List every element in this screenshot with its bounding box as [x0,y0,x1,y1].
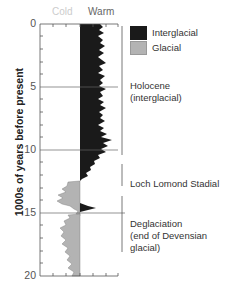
annotation-loch-lomond: Loch Lomond Stadial [130,178,219,190]
legend-label-interglacial: Interglacial [152,27,198,38]
interglacial-area [80,24,112,181]
warm-spike-area [80,203,96,212]
annotation-loch-lomond-line: Loch Lomond Stadial [130,178,219,190]
annotation-deglaciation-line3: glacial) [130,242,207,254]
legend-swatch-interglacial [130,26,147,40]
glacial-area-lower [60,214,80,276]
annotation-deglaciation-line1: Deglaciation [130,218,207,230]
legend-label-glacial: Glacial [152,42,181,53]
annotation-deglaciation-line2: (end of Devensian [130,230,207,242]
annotation-holocene-line2: (interglacial) [130,92,182,104]
legend-swatch-glacial [130,41,147,55]
annotation-deglaciation: Deglaciation (end of Devensian glacial) [130,218,207,254]
annotation-holocene: Holocene (interglacial) [130,80,182,104]
glacial-area [57,181,80,216]
annotation-holocene-line1: Holocene [130,80,182,92]
